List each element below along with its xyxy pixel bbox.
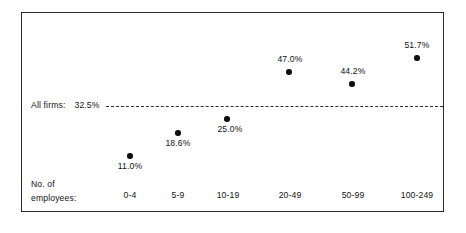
- x-tick-label-50-99: 50-99: [342, 190, 365, 200]
- x-axis-title-line2: employees:: [31, 192, 76, 206]
- reference-line-name: All firms:: [31, 100, 65, 110]
- data-point-50-99: [349, 81, 354, 86]
- x-tick-label-5-9: 5-9: [172, 190, 185, 200]
- all-firms-reference-line: [106, 106, 443, 107]
- data-point-10-19: [224, 116, 229, 121]
- data-point-20-49: [286, 69, 291, 74]
- value-label-10-19: 25.0%: [217, 124, 242, 134]
- x-tick-label-0-4: 0-4: [124, 190, 137, 200]
- value-label-0-4: 11.0%: [118, 161, 142, 171]
- data-point-5-9: [175, 130, 180, 135]
- reference-line-value: 32.5%: [74, 100, 99, 110]
- x-tick-label-20-49: 20-49: [279, 190, 302, 200]
- all-firms-reference-label: All firms:32.5%: [31, 100, 100, 110]
- value-label-50-99: 44.2%: [340, 66, 365, 76]
- x-tick-label-10-19: 10-19: [217, 190, 240, 200]
- plot-frame: [21, 12, 444, 212]
- x-axis-title-line1: No. of: [31, 178, 76, 192]
- data-point-100-249: [414, 55, 419, 60]
- x-tick-label-100-249: 100-249: [401, 190, 434, 200]
- x-axis-title: No. of employees:: [31, 178, 76, 205]
- value-label-5-9: 18.6%: [165, 138, 190, 148]
- value-label-100-249: 51.7%: [404, 40, 429, 50]
- data-point-0-4: [127, 153, 132, 158]
- scatter-chart: All firms:32.5% 11.0% 18.6% 25.0% 47.0% …: [0, 0, 466, 233]
- value-label-20-49: 47.0%: [277, 54, 302, 64]
